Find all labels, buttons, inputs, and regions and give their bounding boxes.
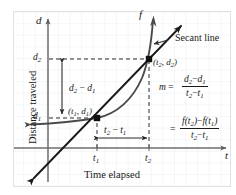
slope-fraction-1-denominator: t2−t1 <box>182 86 208 99</box>
curve-name-label: f <box>139 9 142 20</box>
point-marker-1 <box>94 115 100 121</box>
pt2-d-sub: 2 <box>171 61 174 68</box>
slope-fraction-2-denominator: t2−t1 <box>180 128 219 141</box>
second-equals-sign: = <box>170 124 175 134</box>
point-label-1: (t1, d1) <box>68 107 92 117</box>
slope-fraction-1: d2−d1 t2−t1 <box>182 74 208 99</box>
f1n-b-sub: 1 <box>202 78 205 85</box>
slope-symbol-equals: m = <box>159 82 174 92</box>
pt1-t-sub: 1 <box>74 110 77 117</box>
dd-minus: − <box>80 83 85 93</box>
dt-a-sub: 2 <box>107 129 110 136</box>
f2n-b-sub: 1 <box>211 120 214 127</box>
f1d-b-sub: 1 <box>200 91 203 98</box>
tick-label-t1: t1 <box>93 154 99 165</box>
horizontal-axis-name: Time elapsed <box>84 170 140 181</box>
vertical-axis-variable: d <box>36 15 42 26</box>
slope-fraction-2-numerator: f(t2)−f(t1) <box>180 116 219 128</box>
tick-label-t1-sub: 1 <box>96 157 99 164</box>
slope-fraction-2: f(t2)−f(t1) t2−t1 <box>180 116 219 141</box>
second-equals: = <box>170 124 175 134</box>
point-marker-2 <box>146 56 152 62</box>
delta-t-label: t2 − t1 <box>104 126 126 137</box>
pt1-d-sub: 1 <box>86 110 89 117</box>
pt2-t-sub: 2 <box>159 61 162 68</box>
point-label-2: (t2, d2) <box>153 58 177 68</box>
tick-label-d2-sub: 2 <box>38 56 41 63</box>
tick-label-d2: d2 <box>33 53 41 64</box>
secant-line-label: Secant line <box>175 33 219 43</box>
delta-d-label: d2 − d1 <box>69 84 95 95</box>
dd-b-sub: 1 <box>92 87 95 94</box>
horizontal-axis-variable: t <box>225 150 228 161</box>
tick-label-t2: t2 <box>145 154 151 165</box>
f2n-f2: f <box>202 116 205 126</box>
slope-equals: = <box>168 82 173 92</box>
tick-label-d1-sub: 1 <box>38 115 41 122</box>
f2d-b-sub: 1 <box>205 133 208 140</box>
f2n-a-sub: 2 <box>190 120 193 127</box>
dd-a-sub: 2 <box>74 87 77 94</box>
dt-b-sub: 1 <box>123 129 126 136</box>
secant-line-figure: d t f Secant line d2 d1 t1 t2 (t1, d1) (… <box>0 0 236 195</box>
slope-fraction-1-numerator: d2−d1 <box>182 74 208 86</box>
f2n-f1: f <box>182 116 185 126</box>
tick-label-t2-sub: 2 <box>148 157 151 164</box>
slope-symbol: m <box>159 82 166 92</box>
vertical-axis-name: Distance traveled <box>27 71 38 144</box>
dt-minus: − <box>112 125 117 135</box>
